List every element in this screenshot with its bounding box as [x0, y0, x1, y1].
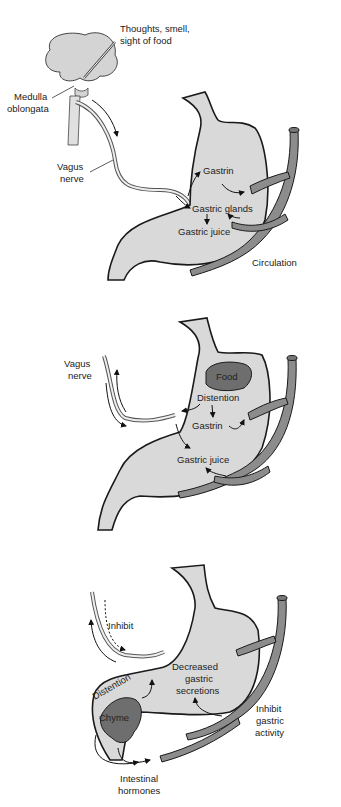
- label-decreased: Decreased: [172, 661, 218, 672]
- brain-icon: [46, 33, 118, 81]
- label-food: Food: [216, 371, 238, 382]
- label-stimulus: Thoughts, smell,: [120, 23, 190, 34]
- label-gastrin-1: Gastrin: [203, 165, 234, 176]
- label-inhibit-activity: Inhibit: [256, 703, 282, 714]
- label-inhibit: Inhibit: [108, 620, 134, 631]
- label-vagus-2: nerve: [60, 173, 84, 184]
- label-juice-2: Gastric juice: [177, 454, 229, 465]
- stomach-2: [98, 318, 270, 530]
- panel-intestinal-phase: Chyme Distention Inhibit Decreased gastr…: [90, 565, 287, 796]
- label-medulla-2: oblongata: [7, 103, 49, 114]
- label-distention-1: Distention: [197, 392, 239, 403]
- label-inhibit-activity-2: gastric: [256, 715, 284, 726]
- label-medulla: Medulla: [14, 91, 48, 102]
- label-gastrin-2: Gastrin: [192, 420, 223, 431]
- label-vagus: Vagus: [57, 161, 83, 172]
- gastric-secretion-diagram: Thoughts, smell, sight of food Medulla o…: [0, 0, 341, 807]
- label-hormones-2: hormones: [118, 785, 160, 796]
- label-inhibit-activity-3: activity: [255, 727, 284, 738]
- label-stimulus-2: sight of food: [120, 35, 172, 46]
- label-circulation: Circulation: [252, 257, 297, 268]
- label-decreased-3: secretions: [176, 685, 220, 696]
- label-juice-1: Gastric juice: [178, 226, 230, 237]
- label-glands: Gastric glands: [192, 203, 253, 214]
- panel-gastric-phase: Food Vagus nerve Distention Gastrin Gast…: [64, 318, 297, 530]
- label-vagus-2c: nerve: [68, 370, 92, 381]
- label-decreased-2: gastric: [185, 673, 213, 684]
- label-hormones: Intestinal: [120, 773, 158, 784]
- label-vagus-2b: Vagus: [64, 358, 90, 369]
- label-chyme: Chyme: [99, 712, 129, 723]
- panel-cephalic-phase: Thoughts, smell, sight of food Medulla o…: [7, 23, 299, 280]
